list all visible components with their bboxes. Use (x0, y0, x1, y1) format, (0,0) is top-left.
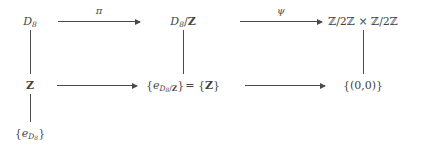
node-top-left-subscript: 8 (32, 20, 37, 29)
node-top-left-dihedral-group: D8 (23, 16, 37, 27)
node-bottom-left-close-brace: } (38, 127, 45, 140)
commutative-diagram-canvas: D8 π D8/Z ψ ℤ/2ℤ × ℤ/2ℤ Z {eD8/Z} = {Z} … (0, 0, 424, 151)
node-mid-left-bold-z: Z (26, 79, 34, 92)
node-top-center-bold-z: Z (188, 15, 196, 28)
node-mid-center-subscript: D8/Z (159, 84, 177, 93)
arrow-mid-left (57, 85, 137, 86)
vline-center-upper (183, 30, 184, 74)
node-bottom-left-subscript: D8 (28, 132, 38, 141)
arrow-top-right-psi (240, 21, 322, 22)
node-mid-center-equals: = { (185, 79, 205, 92)
arrow-label-pi: π (96, 6, 103, 16)
node-mid-center-eq-bold-z: Z (205, 79, 213, 92)
node-mid-center-close-brace: } (177, 79, 184, 92)
node-top-center-quotient-group: D8/Z (170, 16, 195, 27)
node-mid-center-trivial-coset: {eD8/Z} = {Z} (146, 80, 220, 91)
node-bottom-left-open-brace: { (15, 127, 22, 140)
arrow-label-psi: ψ (277, 6, 285, 16)
vline-left-lower (30, 94, 31, 122)
node-top-center-base: D (170, 15, 179, 28)
vline-right-upper (363, 30, 364, 74)
node-mid-center-eq-close-brace: } (213, 79, 220, 92)
arrow-top-left-pi (58, 21, 140, 22)
arrow-mid-right (245, 85, 325, 86)
node-bottom-left-trivial-subgroup: {eD8} (15, 128, 45, 139)
node-top-left-base: D (23, 15, 32, 28)
vline-left-upper (30, 30, 31, 74)
node-mid-left-center-z: Z (26, 80, 34, 91)
node-mid-center-open-brace: { (146, 79, 153, 92)
node-mid-right-zero-pair: {(0,0)} (343, 80, 383, 91)
node-top-right-klein-group: ℤ/2ℤ × ℤ/2ℤ (328, 16, 398, 27)
